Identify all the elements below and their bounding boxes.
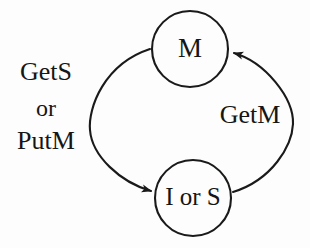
state-node-i-or-s-label: I or S [165, 183, 221, 210]
edge-label-getm: GetM [220, 100, 281, 129]
diagram-canvas: M I or S GetS or PutM GetM [0, 0, 310, 248]
state-node-m-label: M [178, 33, 202, 63]
state-transition-diagram: M I or S GetS or PutM GetM [0, 0, 310, 248]
edge-m-to-i-or-s [90, 49, 151, 191]
edge-label-putm: PutM [17, 126, 75, 155]
edge-label-or: or [36, 95, 56, 121]
edge-label-gets: GetS [20, 57, 72, 86]
